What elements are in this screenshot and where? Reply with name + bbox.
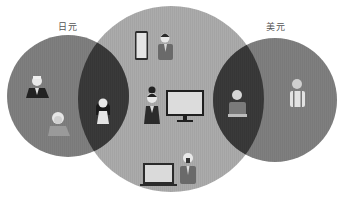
smartphone-icon bbox=[135, 31, 148, 60]
venn-svg bbox=[0, 0, 343, 197]
venn-diagram: 日元 美元 bbox=[0, 0, 343, 197]
right-circle-label: 美元 bbox=[266, 20, 285, 33]
laptop-icon bbox=[140, 163, 177, 186]
left-circle-label: 日元 bbox=[58, 20, 77, 33]
